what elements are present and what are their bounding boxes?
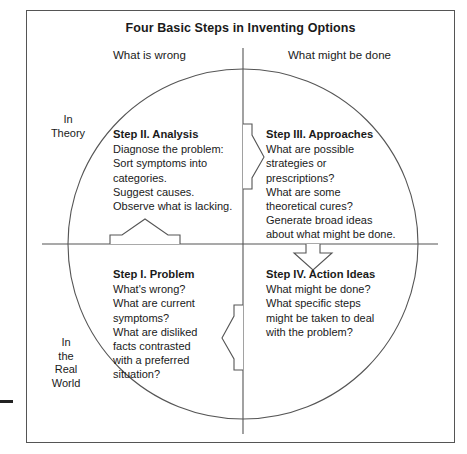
quadrant-step-1-line: with a preferred — [113, 353, 197, 367]
quadrant-step-3-heading: Step III. Approaches — [266, 127, 396, 141]
quadrant-step-2: Step II. Analysis Diagnose the problem: … — [113, 127, 232, 213]
quadrant-step-3-line: What are possible — [266, 142, 396, 156]
quadrant-step-1-line: situation? — [113, 367, 197, 381]
quadrant-step-3: Step III. Approaches What are possible s… — [266, 127, 396, 242]
row-label-real-line-3: Real — [42, 363, 90, 377]
quadrant-step-3-line: strategies or — [266, 156, 396, 170]
quadrant-step-3-line: Generate broad ideas — [266, 213, 396, 227]
page-margin-tick — [0, 400, 13, 403]
page-title: Four Basic Steps in Inventing Options — [26, 21, 455, 35]
quadrant-step-1-line: facts contrasted — [113, 339, 197, 353]
quadrant-step-1-line: What are disliked — [113, 325, 197, 339]
quadrant-step-3-line: prescriptions? — [266, 171, 396, 185]
quadrant-step-1-line: What's wrong? — [113, 282, 197, 296]
quadrant-step-1-heading: Step I. Problem — [113, 267, 197, 281]
quadrant-step-4-line: with the problem? — [266, 325, 375, 339]
quadrant-step-1-line: symptoms? — [113, 311, 197, 325]
row-label-in-theory-line-2: Theory — [45, 127, 91, 141]
quadrant-step-4-line: What specific steps — [266, 296, 375, 310]
row-label-in-theory: In Theory — [45, 113, 91, 140]
quadrant-step-2-line: Suggest causes. — [113, 185, 232, 199]
row-label-real-line-4: World — [42, 377, 90, 391]
quadrant-step-4-heading: Step IV. Action Ideas — [266, 267, 375, 281]
row-label-real-line-1: In — [42, 336, 90, 350]
quadrant-step-4: Step IV. Action Ideas What might be done… — [266, 267, 375, 339]
column-header-left: What is wrong — [113, 49, 186, 61]
row-label-real-line-2: the — [42, 350, 90, 364]
quadrant-step-2-line: Observe what is lacking. — [113, 199, 232, 213]
quadrant-step-4-line: might be taken to deal — [266, 311, 375, 325]
row-label-in-theory-line-1: In — [45, 113, 91, 127]
quadrant-step-1: Step I. Problem What's wrong? What are c… — [113, 267, 197, 382]
quadrant-step-3-line: What are some — [266, 185, 396, 199]
quadrant-step-3-line: theoretical cures? — [266, 199, 396, 213]
row-label-in-the-real-world: In the Real World — [42, 336, 90, 390]
quadrant-step-2-heading: Step II. Analysis — [113, 127, 232, 141]
diagram-canvas: Four Basic Steps in Inventing Options Wh… — [0, 0, 467, 454]
quadrant-step-2-line: Diagnose the problem: — [113, 142, 232, 156]
quadrant-step-2-line: categories. — [113, 171, 232, 185]
quadrant-step-3-line: about what might be done. — [266, 227, 396, 241]
column-header-right: What might be done — [288, 49, 391, 61]
quadrant-step-2-line: Sort symptoms into — [113, 156, 232, 170]
quadrant-step-1-line: What are current — [113, 296, 197, 310]
quadrant-step-4-line: What might be done? — [266, 282, 375, 296]
